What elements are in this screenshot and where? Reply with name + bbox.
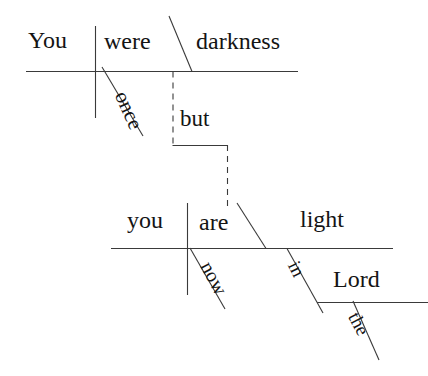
word-but-conjunction: but [180,107,209,130]
word-light-predicate-nominative-two: light [300,207,344,231]
word-you-subject-one: You [28,28,67,52]
word-are-verb-two: are [199,210,228,234]
predicate-nominative-slant-clause-two [237,203,266,249]
preposition-slant-in [287,249,323,314]
word-you-subject-two: you [127,208,163,232]
word-darkness-predicate-nominative-one: darkness [196,29,280,53]
word-were-verb-one: were [104,29,151,53]
sentence-diagram-canvas: You were darkness once but you are light… [0,0,428,376]
predicate-nominative-slant-clause-one [169,16,192,72]
word-lord-object-of-preposition: Lord [333,267,380,291]
